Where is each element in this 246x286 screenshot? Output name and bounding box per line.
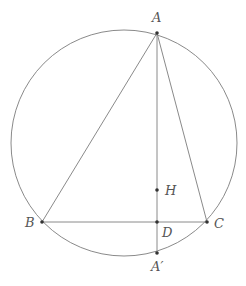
point-c xyxy=(205,220,209,224)
point-h xyxy=(155,188,159,192)
segments xyxy=(42,33,207,253)
point-a xyxy=(155,31,159,35)
points xyxy=(40,31,209,255)
point-labels: ABCDHA′ xyxy=(24,10,224,274)
label-h: H xyxy=(164,183,177,198)
label-a: A xyxy=(151,10,161,25)
label-b: B xyxy=(24,215,35,230)
label-a-prime: A′ xyxy=(150,259,163,274)
point-d xyxy=(155,220,159,224)
point-a-prime xyxy=(155,251,159,255)
label-d: D xyxy=(161,225,173,240)
point-b xyxy=(40,220,44,224)
segment-ab xyxy=(42,33,157,222)
geometry-diagram: ABCDHA′ xyxy=(0,0,246,286)
label-c: C xyxy=(214,216,224,231)
